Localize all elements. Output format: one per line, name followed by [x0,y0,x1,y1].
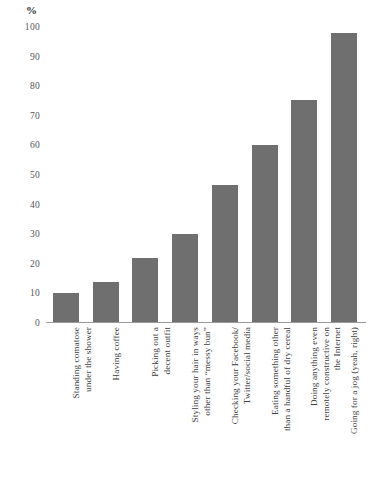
y-axis-tick-label: 90 [30,52,40,62]
bar-chart: % 0102030405060708090100 Standing comato… [0,0,371,496]
bar [252,145,278,323]
y-axis-tick-label: 50 [30,170,40,180]
x-axis-tick-label: Going for a jog (yeah, right) [349,327,361,492]
y-axis-tick-label: 100 [25,22,40,32]
x-axis-tick-label: Picking out a decent outfit [150,327,173,492]
bar [93,282,119,323]
bar [172,234,198,323]
y-axis-tick-label: 60 [30,140,40,150]
x-axis-tick-label: Eating something other than a handful of… [270,327,293,492]
x-axis-labels: Standing comatose under the showerHaving… [46,327,366,495]
x-axis-tick-label: Checking your Facebook/ Twitter/social m… [230,327,253,492]
y-axis-tick-label: 80 [30,81,40,91]
x-axis-tick-label: Doing anything even remotely constructiv… [309,327,344,492]
x-axis-tick-label: Having coffee [111,327,123,492]
x-axis-tick-label: Standing comatose under the shower [71,327,94,492]
y-axis-tick-label: 30 [30,229,40,239]
y-axis-unit-label: % [26,4,37,16]
plot-area: 0102030405060708090100 [46,27,364,323]
x-axis-tick-label: Styling your hair in ways other than “me… [190,327,213,492]
bar [212,185,238,323]
bar [291,100,317,323]
bar [132,258,158,323]
y-axis-tick-label: 10 [30,288,40,298]
x-axis-baseline [46,322,366,323]
y-axis-tick-label: 70 [30,111,40,121]
y-axis-tick-label: 0 [35,318,40,328]
y-axis-tick-label: 20 [30,259,40,269]
bar [331,33,357,323]
bar [53,293,79,323]
y-axis-tick-label: 40 [30,200,40,210]
